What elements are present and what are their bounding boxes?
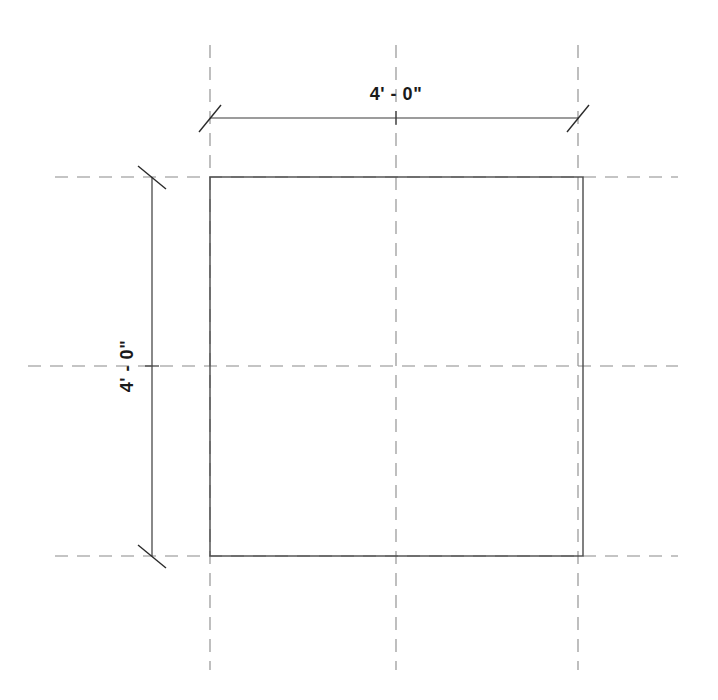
dimension-label-horizontal: 4' - 0"	[370, 84, 422, 104]
dimension-vertical-group: 4' - 0"	[117, 166, 166, 568]
cad-drawing-svg: 4' - 0" 4' - 0"	[0, 0, 718, 700]
dimension-label-vertical: 4' - 0"	[117, 340, 137, 392]
cad-drawing-canvas: 4' - 0" 4' - 0"	[0, 0, 718, 700]
dimension-horizontal-group: 4' - 0"	[199, 84, 589, 132]
